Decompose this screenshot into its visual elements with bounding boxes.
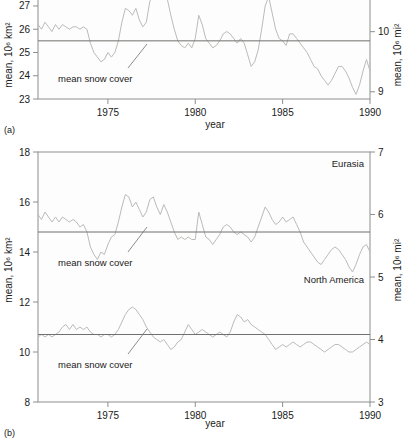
series-label: Eurasia bbox=[332, 158, 365, 169]
panel-a-x-title: year bbox=[205, 119, 225, 130]
x-tick-label: 1985 bbox=[272, 410, 295, 421]
y-tick-label-right: 6 bbox=[378, 209, 384, 220]
y-tick-label-right: 3 bbox=[378, 397, 384, 408]
panel-b-label: (b) bbox=[4, 428, 15, 438]
y-tick-label-left: 18 bbox=[19, 147, 31, 158]
annotation-label: mean snow cover bbox=[58, 359, 132, 370]
x-tick-label: 1985 bbox=[272, 107, 295, 118]
x-tick-label: 1975 bbox=[97, 107, 120, 118]
plot-area bbox=[38, 0, 370, 99]
series-label: North America bbox=[304, 274, 365, 285]
panel-a-y-left-title: mean, 10⁶ km² bbox=[3, 22, 14, 88]
panel-b-x-title: year bbox=[205, 418, 225, 429]
y-tick-label-right: 7 bbox=[378, 147, 384, 158]
y-tick-label-left: 26 bbox=[19, 24, 31, 35]
y-tick-label-left: 10 bbox=[19, 347, 31, 358]
y-tick-label-left: 14 bbox=[19, 247, 31, 258]
y-tick-label-left: 27 bbox=[19, 0, 31, 11]
panel-a-label: (a) bbox=[4, 125, 15, 135]
x-tick-label: 1980 bbox=[184, 107, 207, 118]
panel-a-svg: 23242526279101975198019851990mean snow c… bbox=[0, 0, 411, 135]
x-tick-label: 1990 bbox=[359, 107, 382, 118]
x-tick-label: 1975 bbox=[97, 410, 120, 421]
y-tick-label-left: 24 bbox=[19, 70, 31, 81]
panel-a: 23242526279101975198019851990mean snow c… bbox=[0, 0, 411, 135]
panel-b: 81012141618345671975198019851990mean sno… bbox=[0, 135, 411, 438]
y-tick-label-right: 10 bbox=[378, 26, 390, 37]
panel-a-y-right-title: mean, 10⁶ mi² bbox=[392, 23, 403, 86]
x-tick-label: 1980 bbox=[184, 410, 207, 421]
annotation-label: mean snow cover bbox=[58, 257, 132, 268]
y-tick-label-right: 9 bbox=[378, 86, 384, 97]
y-tick-label-left: 8 bbox=[24, 397, 30, 408]
panel-b-y-right-title: mean, 10⁶ mi² bbox=[392, 238, 403, 301]
annotation-label: mean snow cover bbox=[58, 73, 132, 84]
x-tick-label: 1990 bbox=[359, 410, 382, 421]
snow-cover-figure: 23242526279101975198019851990mean snow c… bbox=[0, 0, 411, 438]
y-tick-label-left: 23 bbox=[19, 94, 31, 105]
y-tick-label-right: 4 bbox=[378, 334, 384, 345]
y-tick-label-left: 12 bbox=[19, 297, 31, 308]
panel-b-svg: 81012141618345671975198019851990mean sno… bbox=[0, 135, 411, 438]
y-tick-label-left: 25 bbox=[19, 47, 31, 58]
y-tick-label-left: 16 bbox=[19, 197, 31, 208]
panel-b-y-left-title: mean, 10⁶ km² bbox=[3, 237, 14, 303]
y-tick-label-right: 5 bbox=[378, 272, 384, 283]
